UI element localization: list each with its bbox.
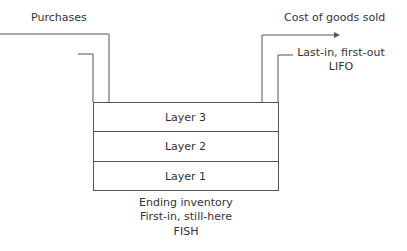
lifo-label-line1: Last-in, first-out: [296, 46, 386, 60]
purchases-label: Purchases: [31, 11, 87, 25]
fish-label: FISH: [136, 225, 236, 239]
layer-2: Layer 2: [93, 132, 278, 161]
fish-desc-label: First-in, still-here: [136, 210, 236, 224]
ending-inventory-label: Ending inventory: [136, 196, 236, 210]
layer-1: Layer 1: [93, 162, 278, 191]
left-wall-line: [78, 54, 93, 102]
right-wall-line: [278, 55, 293, 102]
lifo-label-line2: LIFO: [296, 60, 386, 74]
cogs-label: Cost of goods sold: [284, 11, 385, 25]
arrow-right-icon: [334, 32, 340, 38]
layer-3: Layer 3: [93, 103, 278, 132]
